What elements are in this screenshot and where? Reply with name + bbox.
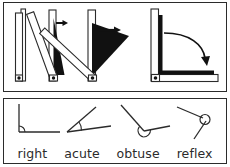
angle-types-drawing [4,99,226,145]
angle-types-figure: right acute obtuse reflex [0,0,230,167]
folding-ruler-sequence-panel [3,2,227,92]
angle-label-reflex: reflex [177,147,213,161]
sweep-arrow-step-4 [164,33,210,66]
angle-diagram-right [19,104,60,132]
motion-arrow-step-2 [56,20,68,26]
angle-label-acute: acute [64,147,100,161]
ruler-step-4-right-angle [151,9,218,82]
ruler-step-1-closed [16,9,26,81]
angle-diagram-obtuse [121,105,170,137]
folding-ruler-sequence-drawing [4,3,226,91]
angle-type-labels: right acute obtuse reflex [4,147,226,161]
angle-diagram-reflex [177,107,210,139]
angle-label-right: right [17,147,47,161]
angle-types-panel: right acute obtuse reflex [3,98,227,164]
angle-label-obtuse: obtuse [117,147,160,161]
angle-diagram-acute [67,107,111,132]
